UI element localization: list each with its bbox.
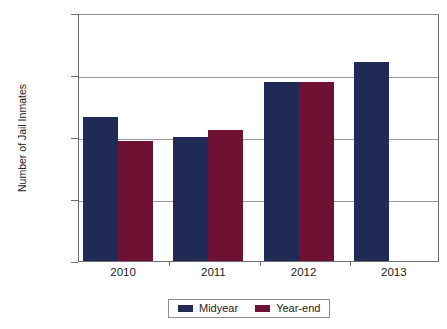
x-tick-label-2012: 2012 — [259, 266, 349, 278]
bar-2010-year-end — [118, 141, 153, 261]
legend-entry-year-end[interactable]: Year-end — [255, 303, 320, 314]
y-tick-mark — [71, 138, 78, 139]
legend-entry-midyear[interactable]: Midyear — [178, 303, 238, 314]
y-tick-mark — [71, 14, 78, 15]
legend-swatch-icon — [255, 305, 270, 312]
y-axis-title: Number of Jail Inmates — [16, 53, 28, 223]
bar-chart: Number of Jail Inmates 50,00060,00070,00… — [0, 0, 447, 329]
legend-swatch-icon — [178, 305, 193, 312]
bar-2013-midyear — [354, 62, 389, 261]
bar-2010-midyear — [83, 117, 118, 261]
plot-area — [78, 14, 439, 262]
legend-label: Year-end — [276, 303, 320, 314]
x-tick-label-2013: 2013 — [349, 266, 439, 278]
y-tick-mark — [71, 262, 78, 263]
x-tick-label-2010: 2010 — [78, 266, 168, 278]
x-tick-label-2011: 2011 — [168, 266, 258, 278]
y-tick-mark — [71, 76, 78, 77]
bar-2012-year-end — [299, 82, 334, 261]
bar-2011-year-end — [208, 130, 243, 261]
bar-2012-midyear — [264, 82, 299, 261]
chart-legend: MidyearYear-end — [168, 299, 330, 318]
y-tick-mark — [71, 200, 78, 201]
legend-label: Midyear — [199, 303, 238, 314]
bar-2011-midyear — [173, 137, 208, 261]
chart-title — [0, 0, 447, 3]
